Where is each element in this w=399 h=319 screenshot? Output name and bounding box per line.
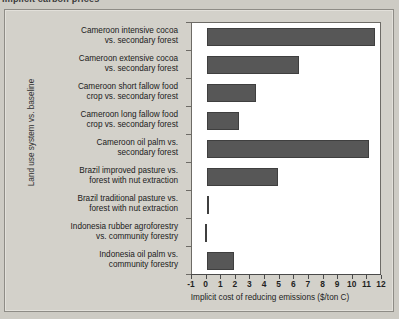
bar-row — [192, 135, 380, 163]
category-label-line: vs. secondary forest — [105, 64, 178, 74]
category-label-line: forest with nut extraction — [89, 176, 178, 186]
x-tick-label: 3 — [247, 279, 252, 289]
x-axis-tick-labels: -10123456789101112 — [191, 279, 381, 291]
category-label: Brazil improved pasture vs.forest with n… — [27, 162, 182, 190]
x-tick-label: 4 — [262, 279, 267, 289]
bar-row — [192, 163, 380, 191]
category-label: Cameroon intensive cocoavs. secondary fo… — [27, 22, 182, 50]
category-label: Cameroon extensive cocoavs. secondary fo… — [27, 50, 182, 78]
category-label-line: community forestry — [109, 260, 178, 270]
bar[interactable] — [207, 112, 239, 130]
bar[interactable] — [207, 140, 369, 158]
category-label-line: Cameroon short fallow food — [78, 82, 178, 92]
x-tick-label: 6 — [291, 279, 296, 289]
x-tick-label: 1 — [218, 279, 223, 289]
bar[interactable] — [207, 252, 235, 270]
category-label: Indonesia oil palm vs.community forestry — [27, 246, 182, 274]
category-label-line: secondary forest — [117, 148, 178, 158]
bar[interactable] — [207, 84, 257, 102]
bar-row — [192, 219, 380, 247]
category-label: Cameroon short fallow foodcrop vs. secon… — [27, 78, 182, 106]
cutoff-title-text: Implicit carbon prices — [2, 0, 99, 4]
bar[interactable] — [207, 168, 279, 186]
bar[interactable] — [205, 224, 207, 242]
x-tick-label: 8 — [320, 279, 325, 289]
category-label-line: Cameroon oil palm vs. — [97, 138, 178, 148]
category-label: Brazil traditional pasture vs.forest wit… — [27, 190, 182, 218]
x-tick-label: 9 — [335, 279, 340, 289]
x-tick-label: 5 — [276, 279, 281, 289]
bar-row — [192, 51, 380, 79]
x-tick-label: 0 — [203, 279, 208, 289]
category-label-line: forest with nut extraction — [89, 204, 178, 214]
category-label-line: Cameroon extensive cocoa — [79, 54, 178, 64]
bar-row — [192, 23, 380, 51]
category-label-line: Indonesia oil palm vs. — [99, 250, 178, 260]
category-label-line: crop vs. secondary forest — [87, 92, 178, 102]
bars-layer — [192, 23, 380, 274]
category-label-line: vs. secondary forest — [105, 36, 178, 46]
x-tick-label: -1 — [187, 279, 194, 289]
category-label-line: vs. community forestry — [96, 232, 178, 242]
bar-row — [192, 79, 380, 107]
category-label: Cameroon long fallow foodcrop vs. second… — [27, 106, 182, 134]
x-tick-label: 7 — [306, 279, 311, 289]
x-tick-label: 10 — [347, 279, 356, 289]
x-tick-label: 2 — [233, 279, 238, 289]
category-label-line: Brazil improved pasture vs. — [79, 166, 178, 176]
bar[interactable] — [207, 56, 299, 74]
category-label-line: Cameroon intensive cocoa — [81, 26, 178, 36]
x-axis-title: Implicit cost of reducing emissions ($/t… — [155, 293, 385, 302]
x-tick-label: 11 — [362, 279, 371, 289]
bar[interactable] — [207, 28, 375, 46]
category-label-line: crop vs. secondary forest — [87, 120, 178, 130]
category-label: Indonesia rubber agroforestryvs. communi… — [27, 218, 182, 246]
category-label: Cameroon oil palm vs.secondary forest — [27, 134, 182, 162]
bar-row — [192, 191, 380, 219]
category-label-line: Indonesia rubber agroforestry — [71, 222, 178, 232]
figure-panel: Land use system vs. baseline Cameroon in… — [4, 9, 394, 312]
category-label-line: Brazil traditional pasture vs. — [77, 194, 178, 204]
category-label-line: Cameroon long fallow food — [81, 110, 178, 120]
category-label-column: Cameroon intensive cocoavs. secondary fo… — [27, 22, 182, 274]
bar-row — [192, 107, 380, 135]
plot-area — [191, 22, 381, 274]
bar[interactable] — [207, 196, 209, 214]
x-tick-label: 12 — [376, 279, 385, 289]
cutoff-title-strip: Implicit carbon prices — [0, 0, 399, 7]
bar-row — [192, 247, 380, 275]
